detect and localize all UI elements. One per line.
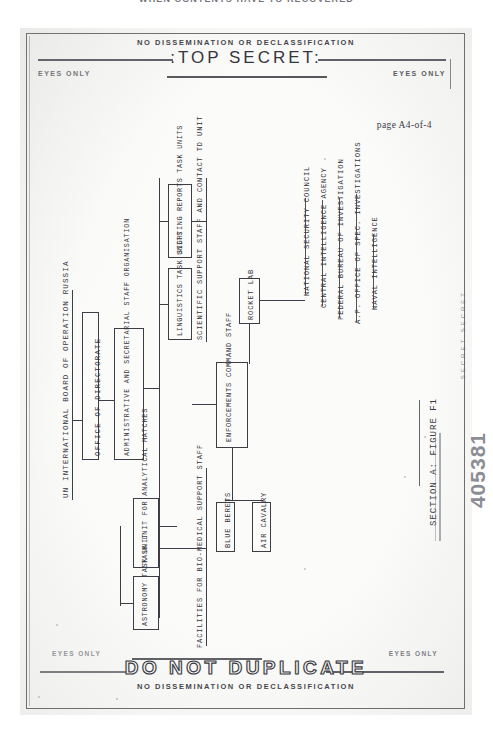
chart-link-spine-enforcements (192, 404, 216, 405)
chart-link-root-office (72, 420, 83, 421)
chart-rule-scientific-support (206, 178, 207, 342)
chart-link-spine-linguistics (159, 304, 169, 305)
chart-box-administrative-staff-label: ADMINISTRATIVE AND SECRETARIAL STAFF ORG… (124, 218, 132, 456)
chart-box-office-of-directorate-label: OFFICE OF DIRECTORATE (94, 338, 102, 456)
chart-agency-rule-1 (322, 200, 323, 306)
chart-box-linguistics-label: LINGUISTICS TASK UNITS (176, 231, 184, 336)
chart-link-spine-scientific (192, 221, 206, 222)
chart-enforcements-down-spine (232, 448, 233, 500)
chart-box-air-cavalry-label: AIR CAVALRY (260, 492, 268, 548)
chart-agency-rule-3 (356, 194, 357, 322)
chart-main-spine (159, 178, 160, 618)
chart-link-office-admin (99, 400, 114, 401)
chart-label-facilities-biomedical: FACILITIES FOR BIO-MEDICAL SUPPORT STAFF (196, 444, 204, 648)
chart-rule-facilities (206, 468, 207, 646)
scan-top-banner: WHEN CONTENTS HAVE TO RECOVERED (0, 0, 493, 5)
chart-link-astronomy-out (120, 603, 134, 604)
chart-link-spine-facilities (159, 548, 206, 549)
chart-label-scientific-support: SCIENTIFIC SUPPORT STAFF AND CONTACT TD … (196, 116, 204, 340)
chart-box-rocket-lab-label: ROCKET LAB (247, 269, 255, 320)
chart-agency-rule-2 (339, 198, 340, 318)
chart-left-collector-spine (120, 526, 121, 606)
chart-box-blue-berets-label: BLUE BERETS (224, 492, 232, 548)
chart-link-rocket-agencies (260, 300, 305, 301)
chart-agency-rule-0 (305, 198, 306, 294)
chart-link-enforcements-rocket (249, 324, 250, 364)
chart-link-spine-sighting (159, 221, 169, 222)
chart-root-spine (72, 290, 73, 500)
chart-box-enforcements-command-label: ENFORCEMENTS COMMAND STAFF (225, 312, 234, 442)
chart-agency-rule-4 (373, 234, 374, 308)
chart-box-astronomy-label: ASTRONOMY TASK UNIT (141, 533, 149, 626)
chart-link-admin-spine (144, 388, 160, 389)
organization-chart: UN INTERNATIONAL BOARD OF OPERATION RUSS… (20, 28, 472, 715)
chart-link-analytical-out (159, 526, 177, 527)
scanned-document-page: NO DISSEMINATION OR DECLASSIFICATION :TO… (20, 28, 472, 715)
chart-root-label: UN INTERNATIONAL BOARD OF OPERATION RUSS… (62, 260, 70, 498)
